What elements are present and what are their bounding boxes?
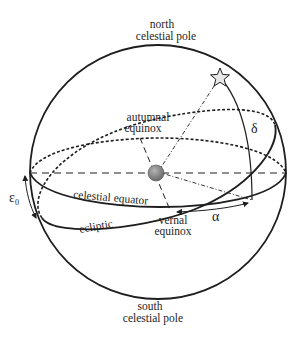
earth-star-line [158,77,220,172]
vernal-equinox-label-line2: equinox [154,225,191,238]
star-icon [211,68,230,86]
obliquity-label: ε0 [9,190,19,207]
autumnal-equinox-label-line2: equinox [124,122,161,135]
north-pole-label-line1: north [150,18,175,30]
declination-label: δ [251,121,258,136]
right-ascension-label: α [212,209,220,224]
ecliptic-label: ecliptic [78,217,114,236]
earth-sphere [148,165,164,181]
south-pole-label-line1: south [138,300,163,312]
celestial-sphere-diagram: north celestial pole south celestial pol… [0,0,301,337]
south-pole-label-line2: celestial pole [123,312,183,325]
north-pole-label-line2: celestial pole [136,30,196,43]
hour-circle-arc [220,77,252,200]
obliquity-subscript: 0 [15,198,19,207]
